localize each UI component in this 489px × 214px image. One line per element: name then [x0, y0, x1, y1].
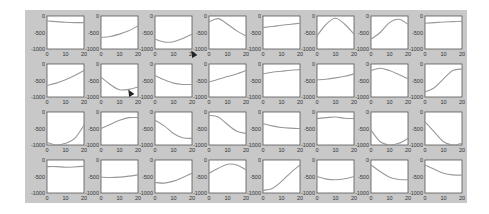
- x-tick-label: 0: [207, 99, 210, 105]
- y-tick-label: 0: [312, 61, 315, 67]
- y-tick-label: -1000: [355, 94, 369, 100]
- x-tick-label: 0: [153, 99, 156, 105]
- y-tick-label: -500: [412, 126, 423, 132]
- y-tick-label: -1000: [31, 46, 45, 52]
- y-tick-label: -1000: [85, 46, 99, 52]
- x-tick-label: 0: [261, 195, 264, 201]
- x-tick-label: 10: [224, 99, 230, 105]
- subplot-r4-c6: 0-500-100001020: [301, 157, 357, 201]
- x-tick-label: 10: [386, 99, 392, 105]
- x-tick-label: 10: [278, 195, 284, 201]
- x-tick-label: 10: [170, 99, 176, 105]
- y-tick-label: 0: [258, 109, 261, 115]
- y-tick-label: -1000: [247, 46, 261, 52]
- y-tick-label: -500: [142, 126, 153, 132]
- y-tick-label: 0: [258, 61, 261, 67]
- y-tick-label: -500: [34, 126, 45, 132]
- y-tick-label: -1000: [193, 190, 207, 196]
- x-tick-label: 0: [315, 51, 318, 57]
- axes-frame: [47, 160, 84, 193]
- axes-frame: [155, 16, 192, 49]
- x-tick-label: 10: [116, 147, 122, 153]
- subplot-r2-c2: 0-500-100001020: [85, 61, 141, 105]
- x-tick-label: 0: [423, 51, 426, 57]
- x-tick-label: 0: [153, 195, 156, 201]
- x-tick-label: 10: [224, 51, 230, 57]
- y-tick-label: -1000: [409, 94, 423, 100]
- y-tick-label: -1000: [409, 46, 423, 52]
- y-tick-label: 0: [258, 157, 261, 163]
- x-tick-label: 10: [278, 51, 284, 57]
- x-tick-label: 10: [62, 99, 68, 105]
- subplot-r3-c8: 0-500-100001020: [409, 109, 465, 153]
- y-tick-label: 0: [366, 13, 369, 19]
- y-tick-label: -500: [412, 78, 423, 84]
- x-tick-label: 0: [261, 99, 264, 105]
- x-tick-label: 10: [440, 147, 446, 153]
- x-tick-label: 10: [440, 195, 446, 201]
- x-tick-label: 0: [153, 51, 156, 57]
- x-tick-label: 20: [459, 51, 465, 57]
- axes-frame: [263, 16, 300, 49]
- y-tick-label: 0: [96, 109, 99, 115]
- y-tick-label: -500: [358, 126, 369, 132]
- x-tick-label: 10: [62, 147, 68, 153]
- axes-frame: [317, 16, 354, 49]
- subplot-r4-c4: 0-500-100001020: [193, 157, 249, 201]
- x-tick-label: 0: [315, 147, 318, 153]
- y-tick-label: 0: [204, 13, 207, 19]
- subplot-r4-c2: 0-500-100001020: [85, 157, 141, 201]
- y-tick-label: -500: [304, 78, 315, 84]
- x-tick-label: 0: [261, 147, 264, 153]
- x-tick-label: 10: [62, 51, 68, 57]
- subplot-r2-c4: 0-500-100001020: [193, 61, 249, 105]
- y-tick-label: 0: [42, 109, 45, 115]
- y-tick-label: -500: [88, 174, 99, 180]
- y-tick-label: 0: [42, 157, 45, 163]
- y-tick-label: 0: [366, 157, 369, 163]
- y-tick-label: -1000: [139, 142, 153, 148]
- subplot-r4-c8: 0-500-100001020: [409, 157, 465, 201]
- subplot-r1-c8: 0-500-100001020: [409, 13, 465, 57]
- y-tick-label: 0: [204, 109, 207, 115]
- x-tick-label: 0: [423, 99, 426, 105]
- axes-frame: [209, 112, 246, 145]
- subplot-r3-c3: 0-500-100001020: [139, 109, 195, 153]
- x-tick-label: 0: [315, 99, 318, 105]
- x-tick-label: 10: [170, 51, 176, 57]
- y-tick-label: -500: [196, 78, 207, 84]
- x-tick-label: 0: [207, 147, 210, 153]
- y-tick-label: 0: [420, 109, 423, 115]
- axes-frame: [371, 160, 408, 193]
- y-tick-label: -1000: [409, 142, 423, 148]
- y-tick-label: -1000: [85, 94, 99, 100]
- y-tick-label: -1000: [247, 94, 261, 100]
- y-tick-label: 0: [96, 13, 99, 19]
- subplot-r2-c5: 0-500-100001020: [247, 61, 303, 105]
- x-tick-label: 10: [278, 147, 284, 153]
- y-tick-label: 0: [42, 13, 45, 19]
- y-tick-label: -1000: [355, 142, 369, 148]
- x-tick-label: 0: [207, 195, 210, 201]
- x-tick-label: 0: [45, 51, 48, 57]
- y-tick-label: -1000: [85, 142, 99, 148]
- y-tick-label: -500: [34, 78, 45, 84]
- x-tick-label: 10: [440, 99, 446, 105]
- axes-frame: [317, 64, 354, 97]
- subplot-r3-c7: 0-500-100001020: [355, 109, 411, 153]
- subplot-r3-c1: 0-500-100001020: [31, 109, 87, 153]
- x-tick-label: 20: [459, 195, 465, 201]
- y-tick-label: -500: [34, 30, 45, 36]
- y-tick-label: -500: [88, 30, 99, 36]
- x-tick-label: 10: [332, 195, 338, 201]
- axes-frame: [371, 112, 408, 145]
- x-tick-label: 0: [423, 195, 426, 201]
- y-tick-label: 0: [420, 13, 423, 19]
- subplot-r2-c1: 0-500-100001020: [31, 61, 87, 105]
- x-tick-label: 10: [224, 195, 230, 201]
- axes-frame: [155, 112, 192, 145]
- y-tick-label: 0: [150, 157, 153, 163]
- x-tick-label: 0: [99, 51, 102, 57]
- y-tick-label: -1000: [193, 142, 207, 148]
- y-tick-label: -1000: [193, 94, 207, 100]
